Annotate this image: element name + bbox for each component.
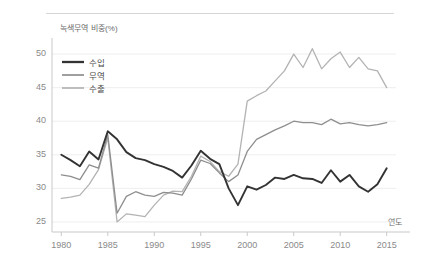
chart-figure: 녹색무역 비중(%) 연도 253035404550 1980198519901… (0, 0, 428, 266)
legend-item-1-label: 수입 (89, 56, 105, 68)
legend-markers (62, 62, 84, 88)
legend-item-3-label: 수출 (89, 82, 105, 94)
plot-area (0, 0, 428, 266)
legend-item-2-label: 무역 (89, 69, 105, 81)
series-lines (61, 49, 386, 222)
